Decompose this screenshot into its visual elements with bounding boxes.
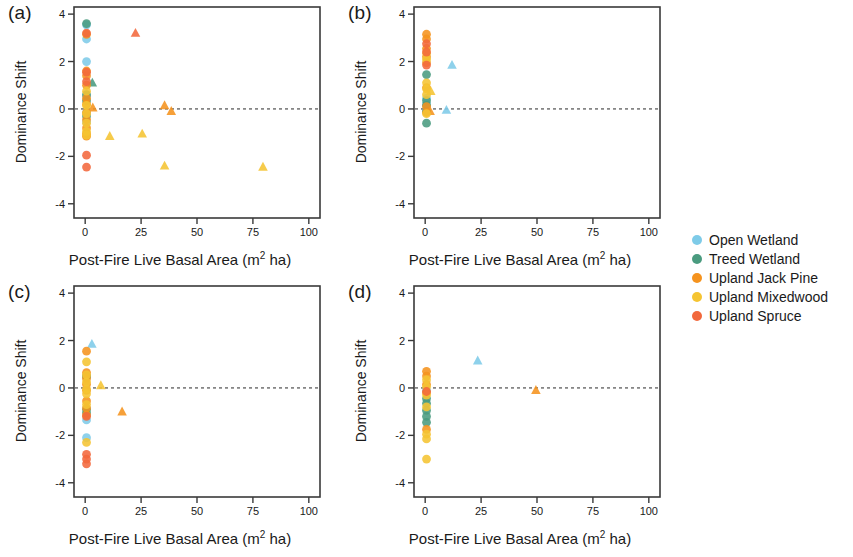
svg-text:0: 0	[399, 382, 405, 394]
data-point	[422, 48, 431, 57]
legend-item[interactable]: Open Wetland	[692, 231, 852, 249]
svg-text:4: 4	[59, 287, 65, 299]
svg-text:100: 100	[640, 505, 658, 517]
figure-scatter-panels: (a) Jack Pine 0255075100-4-2024 Dominanc…	[0, 0, 853, 557]
x-axis-title-tail: ha)	[265, 251, 291, 268]
x-axis-title-main: Post-Fire Live Basal Area (m	[409, 530, 600, 547]
svg-text:0: 0	[82, 226, 88, 238]
data-point	[82, 57, 91, 66]
data-point	[82, 19, 91, 28]
data-point	[82, 68, 91, 77]
data-point	[422, 90, 431, 99]
svg-text:-4: -4	[395, 198, 405, 210]
y-axis-title: Dominance Shift	[353, 326, 369, 456]
legend-item[interactable]: Upland Mixedwood	[692, 288, 852, 306]
y-axis-title: Dominance Shift	[13, 326, 29, 456]
data-point	[82, 87, 91, 96]
plot-area: 0255075100-4-2024	[0, 279, 340, 557]
data-point	[82, 400, 91, 409]
legend-item[interactable]: Upland Jack Pine	[692, 269, 852, 287]
data-point	[422, 39, 431, 48]
data-point	[82, 119, 91, 128]
data-point	[422, 455, 431, 464]
svg-text:2: 2	[399, 56, 405, 68]
svg-text:-4: -4	[395, 477, 405, 489]
data-point	[82, 109, 91, 118]
svg-text:0: 0	[59, 382, 65, 394]
svg-text:75: 75	[587, 226, 599, 238]
svg-text:75: 75	[247, 505, 259, 517]
svg-text:2: 2	[59, 56, 65, 68]
data-point	[422, 119, 431, 128]
data-point	[422, 435, 431, 444]
data-point	[82, 438, 91, 447]
svg-text:-2: -2	[55, 150, 65, 162]
plot-area: 0255075100-4-2024	[340, 279, 680, 557]
svg-text:-2: -2	[395, 150, 405, 162]
x-axis-title-tail: ha)	[605, 251, 631, 268]
legend-item-label: Treed Wetland	[709, 251, 800, 267]
y-axis-title: Dominance Shift	[353, 47, 369, 177]
data-point	[82, 77, 91, 86]
legend-item-label: Upland Spruce	[709, 308, 802, 324]
legend-swatch-icon	[692, 292, 702, 302]
x-axis-title: Post-Fire Live Basal Area (m2 ha)	[30, 529, 330, 547]
data-point	[82, 29, 91, 38]
svg-text:0: 0	[399, 103, 405, 115]
panel-a: (a) Jack Pine 0255075100-4-2024 Dominanc…	[0, 0, 340, 278]
x-axis-title-tail: ha)	[265, 530, 291, 547]
svg-text:-2: -2	[395, 429, 405, 441]
panel-d: (d) White Spruce 0255075100-4-2024 Domin…	[340, 279, 680, 557]
legend-swatch-icon	[692, 235, 702, 245]
data-point	[82, 459, 91, 468]
legend-item[interactable]: Upland Spruce	[692, 307, 852, 325]
data-point	[82, 131, 91, 140]
svg-text:4: 4	[59, 8, 65, 20]
legend-item-label: Upland Mixedwood	[709, 289, 828, 305]
svg-text:50: 50	[531, 505, 543, 517]
panel-c: (c) Black Spruce 0255075100-4-2024 Domin…	[0, 279, 340, 557]
legend: Open WetlandTreed WetlandUpland Jack Pin…	[692, 231, 852, 326]
data-point	[82, 389, 91, 398]
data-point	[82, 347, 91, 356]
svg-text:50: 50	[531, 226, 543, 238]
legend-item-label: Upland Jack Pine	[709, 270, 818, 286]
svg-text:0: 0	[82, 505, 88, 517]
legend-item-label: Open Wetland	[709, 232, 798, 248]
x-axis-title-main: Post-Fire Live Basal Area (m	[69, 530, 260, 547]
data-point	[82, 151, 91, 160]
data-point	[82, 163, 91, 172]
svg-text:25: 25	[475, 226, 487, 238]
svg-text:2: 2	[399, 335, 405, 347]
data-point	[422, 61, 431, 70]
svg-text:75: 75	[247, 226, 259, 238]
svg-text:50: 50	[191, 505, 203, 517]
svg-text:4: 4	[399, 8, 405, 20]
data-point	[422, 70, 431, 79]
legend-swatch-icon	[692, 311, 702, 321]
svg-text:0: 0	[422, 505, 428, 517]
x-axis-title-main: Post-Fire Live Basal Area (m	[69, 251, 260, 268]
svg-text:4: 4	[399, 287, 405, 299]
data-point	[82, 412, 91, 421]
data-point	[422, 387, 431, 396]
svg-text:100: 100	[300, 505, 318, 517]
svg-text:-2: -2	[55, 429, 65, 441]
panel-b: (b) Trembling Aspen 0255075100-4-2024 Do…	[340, 0, 680, 278]
svg-text:100: 100	[640, 226, 658, 238]
y-axis-title: Dominance Shift	[13, 47, 29, 177]
svg-text:-4: -4	[55, 198, 65, 210]
x-axis-title: Post-Fire Live Basal Area (m2 ha)	[30, 250, 330, 268]
legend-swatch-icon	[692, 273, 702, 283]
legend-item[interactable]: Treed Wetland	[692, 250, 852, 268]
data-point	[422, 403, 431, 412]
plot-area: 0255075100-4-2024	[0, 0, 340, 278]
legend-swatch-icon	[692, 254, 702, 264]
svg-text:25: 25	[135, 226, 147, 238]
plot-area: 0255075100-4-2024	[340, 0, 680, 278]
svg-text:0: 0	[422, 226, 428, 238]
data-point	[422, 109, 431, 118]
x-axis-title-tail: ha)	[605, 530, 631, 547]
svg-text:100: 100	[300, 226, 318, 238]
svg-text:50: 50	[191, 226, 203, 238]
